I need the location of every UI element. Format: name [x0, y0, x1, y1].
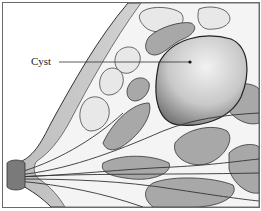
nipple: [7, 160, 25, 190]
breast-cross-section-illustration: [3, 3, 259, 207]
illustration-frame: Cyst: [2, 2, 260, 208]
cyst-pointer-dot: [188, 60, 191, 63]
cyst-label: Cyst: [31, 55, 51, 67]
